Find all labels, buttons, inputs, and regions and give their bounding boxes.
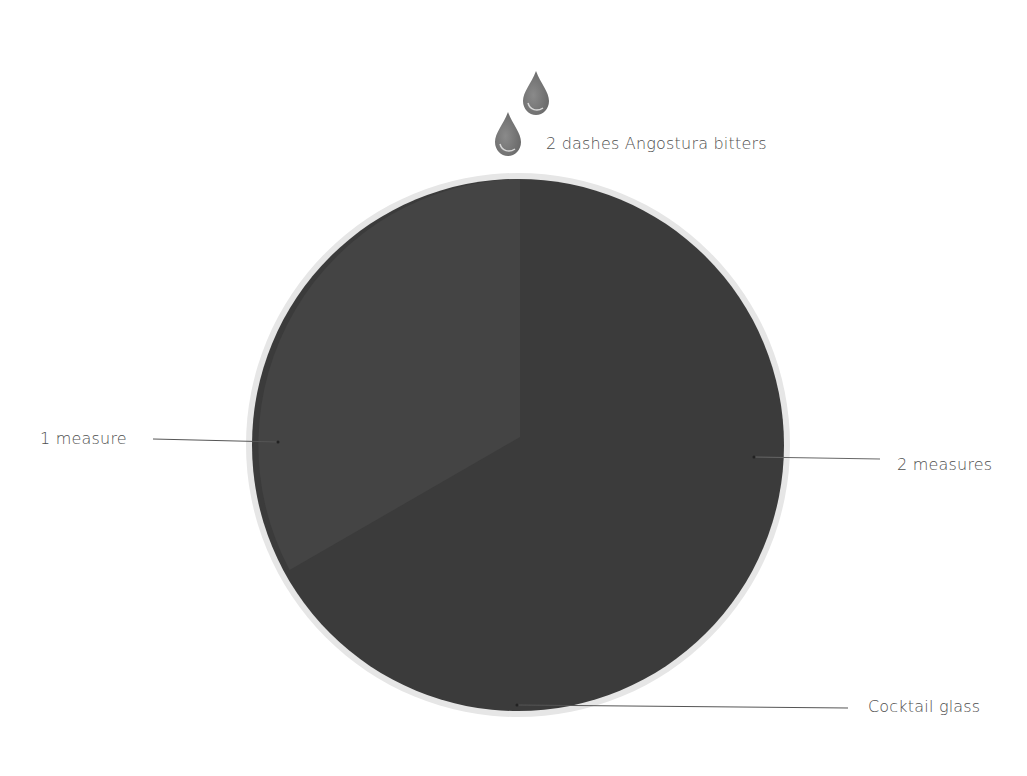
- drop-icon: [523, 71, 549, 115]
- label-bitters: 2 dashes Angostura bitters: [546, 134, 767, 153]
- cocktail-pie-chart: [0, 0, 1027, 776]
- drop-icon: [495, 112, 521, 156]
- label-1-measure: 1 measure: [40, 429, 127, 448]
- label-cocktail-glass: Cocktail glass: [868, 697, 980, 716]
- label-2-measures: 2 measures: [897, 455, 992, 474]
